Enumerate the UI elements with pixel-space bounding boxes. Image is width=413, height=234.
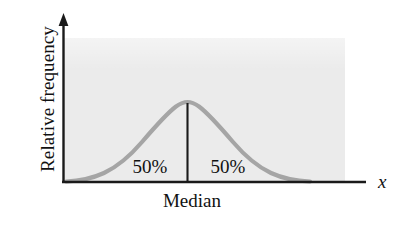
up-arrow-icon (59, 13, 69, 26)
left-percent-label: 50% (122, 156, 178, 178)
right-percent-label: 50% (200, 156, 256, 178)
median-caption-label: Median (132, 190, 252, 212)
figure-container: Relative frequency x 50% 50% Median (0, 0, 413, 234)
y-axis-label: Relative frequency (37, 4, 59, 194)
x-axis-label: x (378, 171, 386, 193)
